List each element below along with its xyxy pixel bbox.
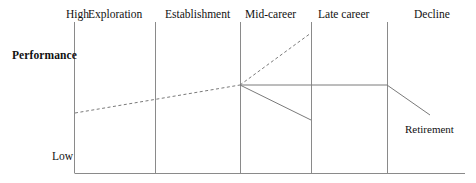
stage-label-establishment: Establishment xyxy=(165,9,230,21)
axis-label-low: Low xyxy=(52,151,73,163)
career-stages-diagram: High Low Performance Exploration Establi… xyxy=(0,0,476,183)
stage-label-mid-career: Mid-career xyxy=(245,9,296,21)
axis-label-performance: Performance xyxy=(12,50,77,62)
axis-label-high: High xyxy=(66,9,89,21)
performance-trajectory-group xyxy=(75,33,430,120)
stage-label-late-career: Late career xyxy=(318,9,369,21)
trajectory-line-2 xyxy=(240,33,311,85)
annotation-retirement: Retirement xyxy=(405,124,454,135)
trajectory-line-4 xyxy=(240,85,311,120)
stage-label-decline: Decline xyxy=(414,9,450,21)
trajectory-line-3 xyxy=(240,85,430,115)
stage-label-exploration: Exploration xyxy=(88,9,142,21)
stage-divider-group xyxy=(156,22,388,173)
trajectory-line-1 xyxy=(75,85,240,113)
